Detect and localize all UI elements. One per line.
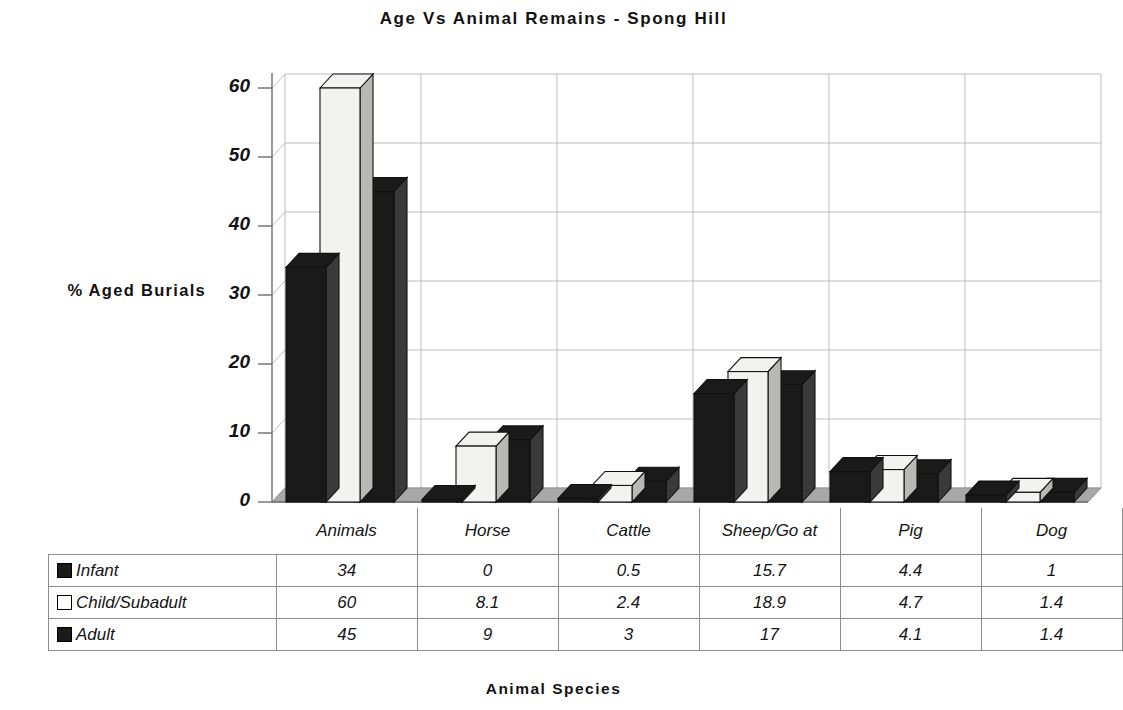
category-header-4: Pig: [840, 508, 981, 555]
category-header-label: Dog: [984, 522, 1120, 540]
bar-side-face: [802, 371, 815, 502]
data-cell: 15.7: [699, 555, 840, 587]
legend-cell-infant: Infant: [49, 555, 277, 587]
category-header-1: Horse: [417, 508, 558, 555]
bar-front-face: [830, 472, 870, 502]
bar-sheepgoat-infant: [694, 380, 747, 502]
data-cell: 1: [981, 555, 1122, 587]
bar-front-face: [422, 500, 462, 503]
data-cell: 4.4: [840, 555, 981, 587]
data-cell: 34: [277, 555, 418, 587]
data-cell: 4.7: [840, 587, 981, 619]
bar-front-face: [694, 394, 734, 502]
data-cell: 4.1: [840, 619, 981, 651]
data-cell: 0: [417, 555, 558, 587]
legend-label: Infant: [76, 561, 119, 580]
gridline-depth-10: [272, 419, 285, 433]
gridline-depth-60: [272, 74, 285, 88]
data-cell: 3: [558, 619, 699, 651]
legend-cell-adult: Adult: [49, 619, 277, 651]
bar-front-face: [286, 267, 326, 502]
table-row: Adult4593174.11.4: [49, 619, 1123, 651]
gridline-depth-20: [272, 350, 285, 364]
table-row: Infant3400.515.74.41: [49, 555, 1123, 587]
data-cell: 9: [417, 619, 558, 651]
bar-side-face: [360, 74, 373, 502]
data-table: AnimalsHorseCattleSheep/Go atPigDogInfan…: [48, 508, 1123, 651]
legend-label: Adult: [76, 625, 115, 644]
bar-front-face: [966, 495, 1006, 502]
legend-label: Child/Subadult: [76, 593, 187, 612]
data-cell: 2.4: [558, 587, 699, 619]
category-header-0: Animals: [277, 508, 418, 555]
data-cell: 1.4: [981, 619, 1122, 651]
gridline-depth-30: [272, 281, 285, 295]
category-header-2: Cattle: [558, 508, 699, 555]
category-header-3: Sheep/Go at: [699, 508, 840, 555]
data-cell: 60: [277, 587, 418, 619]
data-cell: 45: [277, 619, 418, 651]
table-header-row: AnimalsHorseCattleSheep/Go atPigDog: [49, 508, 1123, 555]
table-row: Child/Subadult608.12.418.94.71.4: [49, 587, 1123, 619]
category-header-label: Cattle: [561, 522, 697, 540]
bar-pig-infant: [830, 458, 883, 502]
legend-swatch-icon: [57, 627, 72, 642]
data-cell: 17: [699, 619, 840, 651]
bar-side-face: [768, 358, 781, 502]
category-header-label: Animals: [279, 522, 415, 540]
data-cell: 8.1: [417, 587, 558, 619]
data-cell: 18.9: [699, 587, 840, 619]
data-cell: 1.4: [981, 587, 1122, 619]
legend-swatch-icon: [57, 563, 72, 578]
category-header-5: Dog: [981, 508, 1122, 555]
gridline-depth-40: [272, 212, 285, 226]
table-corner-cell: [49, 508, 277, 555]
category-header-label: Sheep/Go at: [702, 522, 838, 540]
bar-animals-infant: [286, 253, 339, 502]
legend-swatch-icon: [57, 595, 72, 610]
data-cell: 0.5: [558, 555, 699, 587]
category-header-label: Pig: [843, 522, 979, 540]
bar-side-face: [326, 253, 339, 502]
bar-side-face: [734, 380, 747, 502]
bar-front-face: [558, 499, 598, 502]
legend-cell-childsubadult: Child/Subadult: [49, 587, 277, 619]
x-axis-title: Animal Species: [0, 680, 1107, 698]
bar-side-face: [394, 178, 407, 503]
gridline-depth-50: [272, 143, 285, 157]
category-header-label: Horse: [420, 522, 556, 540]
